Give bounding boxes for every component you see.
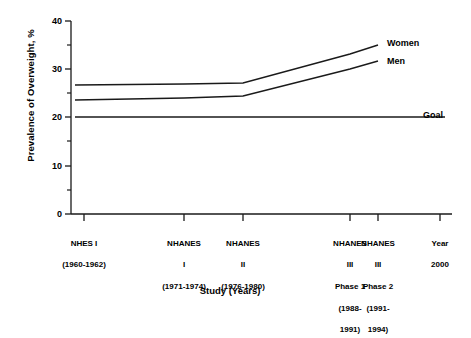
series-label-goal: Goal xyxy=(423,110,443,120)
x-cat-0-line1: NHES I xyxy=(34,239,134,250)
y-tick-label-30: 30 xyxy=(38,64,62,74)
y-axis-major-ticks xyxy=(65,21,71,214)
x-cat-4-line2: III xyxy=(344,260,412,271)
y-tick-label-20: 20 xyxy=(38,112,62,122)
x-cat-0-line2: (1960-1962) xyxy=(34,260,134,271)
series-line-women xyxy=(75,45,378,85)
y-tick-label-40: 40 xyxy=(38,16,62,26)
y-axis-title: Prevalence of Overweight, % xyxy=(25,0,36,196)
series-line-men xyxy=(75,61,378,100)
x-category-label-nhanes-iii-phase-2: NHANES III Phase 2 (1991- 1994) xyxy=(344,228,412,338)
series-label-women: Women xyxy=(387,38,419,48)
x-cat-2-line2: II xyxy=(193,260,293,271)
series-label-men: Men xyxy=(387,56,405,66)
x-axis-title: Study (Years) xyxy=(150,285,310,296)
x-axis-ticks xyxy=(84,214,440,221)
x-category-label-year-2000: Year 2000 xyxy=(406,228,471,282)
x-cat-4-line1: NHANES xyxy=(344,239,412,250)
y-tick-label-10: 10 xyxy=(38,161,62,171)
x-cat-5-line1: Year xyxy=(406,239,471,250)
x-cat-5-line2: 2000 xyxy=(406,260,471,271)
x-cat-4-line4: (1991- xyxy=(344,304,412,315)
x-cat-4-line5: 1994) xyxy=(344,325,412,336)
x-category-label-nhes-i: NHES I (1960-1962) xyxy=(34,228,134,282)
x-cat-2-line1: NHANES xyxy=(193,239,293,250)
x-cat-4-line3: Phase 2 xyxy=(344,282,412,293)
y-tick-label-0: 0 xyxy=(38,209,62,219)
